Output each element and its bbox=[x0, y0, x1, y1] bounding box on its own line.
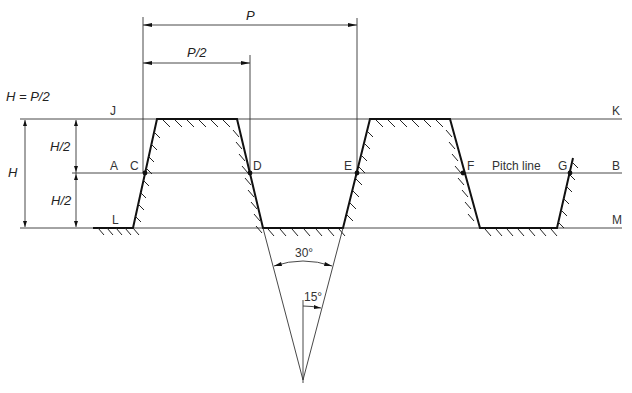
label-b: B bbox=[612, 159, 620, 173]
hatching bbox=[98, 120, 578, 236]
label-m: M bbox=[612, 213, 622, 227]
point-e-label: E bbox=[344, 159, 352, 173]
dim-p2-label: P/2 bbox=[187, 45, 207, 60]
dim-p-label: P bbox=[246, 8, 255, 23]
point-f bbox=[461, 171, 466, 176]
point-e bbox=[355, 171, 360, 176]
label-k: K bbox=[612, 104, 620, 118]
point-c-label: C bbox=[130, 159, 139, 173]
arrow-p-right bbox=[348, 23, 357, 27]
point-d-label: D bbox=[253, 159, 262, 173]
dim-h2-lower-label: H/2 bbox=[51, 193, 72, 208]
arc-30 bbox=[274, 261, 332, 266]
arrow-h-bottom bbox=[23, 221, 27, 227]
arrow-30-right bbox=[324, 262, 332, 266]
formula-label: H = P/2 bbox=[6, 89, 50, 104]
point-c bbox=[143, 171, 148, 176]
arrow-h2-bottom bbox=[74, 221, 78, 227]
arrow-h2-mid-down bbox=[74, 174, 78, 180]
arrow-30-left bbox=[274, 262, 282, 266]
thread-diagram: H = P/2 J K A B L M Pitch line C D E F G… bbox=[0, 0, 632, 393]
point-d bbox=[248, 171, 253, 176]
arrow-p-left bbox=[143, 23, 152, 27]
point-g-label: G bbox=[558, 159, 567, 173]
angle-30-label: 30° bbox=[295, 246, 313, 260]
pitch-line-label: Pitch line bbox=[492, 159, 541, 173]
arrow-h2-top bbox=[74, 120, 78, 126]
arrow-h-top bbox=[23, 120, 27, 126]
arrow-15 bbox=[314, 305, 321, 309]
arrow-h2-mid-up bbox=[74, 166, 78, 172]
label-a: A bbox=[110, 159, 118, 173]
angle-15-label: 15° bbox=[304, 290, 322, 304]
dim-h-label: H bbox=[8, 165, 18, 180]
arrow-p2-right bbox=[241, 61, 250, 65]
dim-h2-upper-label: H/2 bbox=[50, 139, 71, 154]
label-j: J bbox=[110, 104, 116, 118]
arrow-p2-left bbox=[143, 61, 152, 65]
point-g bbox=[568, 171, 573, 176]
label-l: L bbox=[112, 213, 119, 227]
thread-profile bbox=[93, 119, 573, 228]
point-f-label: F bbox=[467, 159, 474, 173]
